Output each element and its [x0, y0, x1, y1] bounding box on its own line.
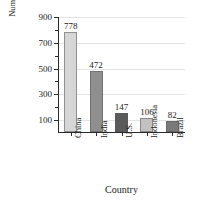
gridline	[59, 17, 185, 18]
x-axis-tick	[96, 133, 97, 136]
y-axis-tick	[54, 120, 58, 121]
bar-value-label: 472	[82, 61, 110, 70]
y-axis-tick	[54, 17, 58, 18]
x-axis-tick	[122, 133, 123, 136]
x-axis-category-label: China	[74, 118, 83, 138]
x-axis-tick	[71, 133, 72, 136]
y-axis-minor-tick	[55, 56, 58, 57]
y-axis-tick-label: 900	[39, 13, 53, 22]
y-axis-tick-label: 700	[39, 39, 53, 48]
bar-value-label: 147	[108, 103, 136, 112]
x-axis-tick	[172, 133, 173, 136]
plot-area: 900700500300100 77847214710682	[58, 17, 185, 133]
y-axis-title-line-1: Number of Workers	[7, 0, 17, 42]
y-axis-title: Number of Workers (millions)	[7, 0, 33, 42]
gridline	[59, 94, 185, 95]
bar-chart-figure: Number of Workers (millions) 90070050030…	[0, 0, 198, 206]
y-axis-tick	[54, 69, 58, 70]
y-axis-tick	[54, 94, 58, 95]
gridline	[59, 43, 185, 44]
y-axis-tick	[54, 43, 58, 44]
x-axis-category-label: India	[100, 121, 109, 138]
y-axis-title-line-2: (millions)	[17, 0, 27, 42]
x-axis-title: Country	[58, 184, 185, 195]
x-axis-category-label: U.S.	[125, 123, 134, 138]
y-axis-tick-label: 100	[39, 116, 53, 125]
x-axis-tick	[147, 133, 148, 136]
y-axis-minor-tick	[55, 107, 58, 108]
gridline	[59, 69, 185, 70]
x-axis-category-label: Brazil	[176, 117, 185, 138]
x-axis-category-label: Indonesia	[150, 105, 159, 138]
y-axis-line	[58, 17, 59, 133]
y-axis-tick-label: 300	[39, 90, 53, 99]
y-axis-minor-tick	[55, 81, 58, 82]
y-axis-tick-label: 500	[39, 65, 53, 74]
bar-value-label: 778	[57, 22, 85, 31]
